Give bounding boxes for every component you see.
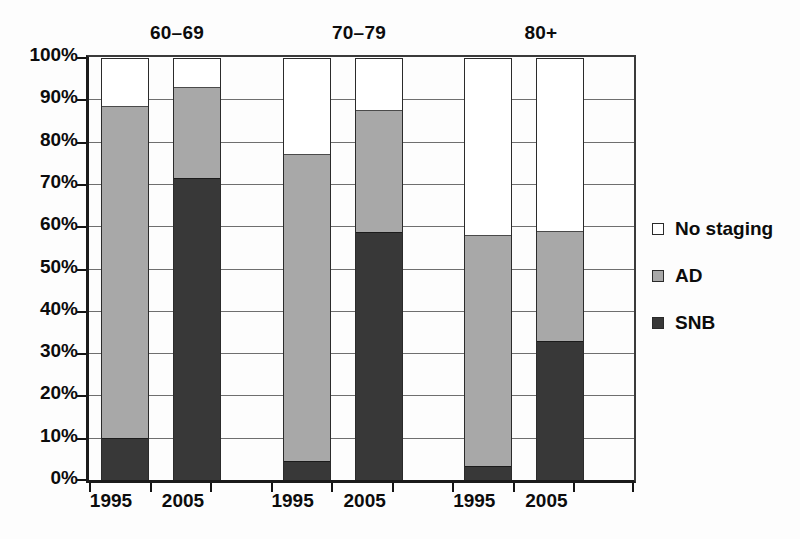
bar-segment-snb[interactable] [284, 461, 330, 480]
group-header-label: 60–69 [150, 22, 204, 43]
y-tick-label: 60% [40, 213, 78, 235]
legend-swatch-ad-icon [652, 270, 664, 282]
bar-stack[interactable] [536, 58, 584, 480]
bar-segment-snb[interactable] [174, 178, 220, 480]
x-tick-label-text: 1995 [453, 490, 495, 511]
x-tick-label-text: 2005 [162, 490, 204, 511]
y-tick-mark [77, 226, 86, 228]
bar-stack[interactable] [283, 58, 331, 480]
bar-stack[interactable] [355, 58, 403, 480]
legend-item-ad[interactable]: AD [652, 252, 792, 299]
bar-segment-ad[interactable] [174, 87, 220, 179]
y-tick-label: 100% [29, 44, 78, 66]
bar-segment-ad[interactable] [284, 154, 330, 461]
legend-item-no-staging[interactable]: No staging [652, 205, 792, 252]
bar-stack[interactable] [101, 58, 149, 480]
legend-label: SNB [675, 312, 715, 334]
bar-segment-ad[interactable] [537, 231, 583, 341]
y-tick-mark [77, 269, 86, 271]
x-tick-label-text: 1995 [271, 490, 313, 511]
y-tick-label: 40% [40, 298, 78, 320]
x-tick-label-g1-2005: 2005 [134, 490, 232, 512]
bar-segment-ad[interactable] [465, 235, 511, 467]
y-tick-mark [77, 142, 86, 144]
bar-segment-snb[interactable] [102, 438, 148, 480]
y-tick-label: 0% [51, 467, 78, 489]
group-header-0: 60–69 [86, 22, 268, 44]
group-header-1: 70–79 [268, 22, 450, 44]
bar-segment-ad[interactable] [102, 106, 148, 438]
legend-swatch-no-staging-icon [652, 223, 664, 235]
y-tick-label: 20% [40, 382, 78, 404]
y-tick-label: 10% [40, 425, 78, 447]
legend: No staging AD SNB [652, 205, 792, 346]
y-tick-mark [77, 311, 86, 313]
y-tick-mark [77, 438, 86, 440]
x-tick-label-text: 2005 [344, 490, 386, 511]
y-tick-label: 70% [40, 171, 78, 193]
x-tick-mark [632, 483, 634, 492]
y-tick-mark [77, 184, 86, 186]
y-tick-label: 50% [40, 256, 78, 278]
bar-stack[interactable] [464, 58, 512, 480]
bar-segment-snb[interactable] [537, 341, 583, 480]
x-tick-label-text: 2005 [525, 490, 567, 511]
y-tick-mark [77, 99, 86, 101]
legend-swatch-snb-icon [652, 317, 664, 329]
x-tick-label-g2-2005: 2005 [316, 490, 414, 512]
group-header-label: 70–79 [332, 22, 386, 43]
x-tick-label-g3-2005: 2005 [497, 490, 595, 512]
y-tick-label: 30% [40, 340, 78, 362]
y-tick-label: 90% [40, 86, 78, 108]
stacked-bar-chart: 60–69 70–79 80+ 100% 90% 80% 70% 60% 50%… [0, 0, 800, 539]
legend-label: No staging [675, 218, 773, 240]
group-header-2: 80+ [450, 22, 632, 44]
group-header-label: 80+ [525, 22, 558, 43]
y-tick-mark [77, 353, 86, 355]
legend-label: AD [675, 265, 702, 287]
plot-area [86, 55, 636, 483]
y-tick-mark [77, 395, 86, 397]
bar-stack[interactable] [173, 58, 221, 480]
bar-segment-snb[interactable] [465, 466, 511, 480]
x-tick-label-text: 1995 [90, 490, 132, 511]
bar-segment-snb[interactable] [356, 232, 402, 480]
y-tick-mark [77, 57, 86, 59]
y-axis-labels: 100% 90% 80% 70% 60% 50% 40% 30% 20% 10%… [0, 0, 78, 539]
bar-segment-ad[interactable] [356, 110, 402, 232]
y-tick-mark [77, 479, 86, 481]
legend-item-snb[interactable]: SNB [652, 299, 792, 346]
y-tick-label: 80% [40, 129, 78, 151]
